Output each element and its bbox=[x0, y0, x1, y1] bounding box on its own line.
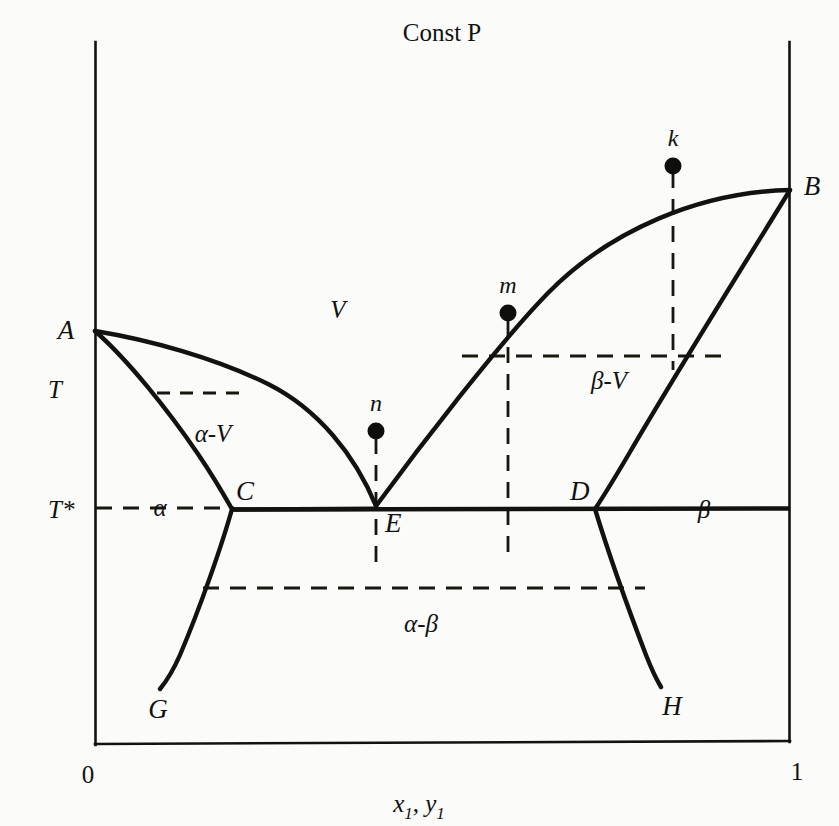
point-label-m: m bbox=[499, 272, 516, 298]
x-axis-label-x-sub: 1 bbox=[404, 804, 413, 823]
region-label-vapor: V bbox=[330, 296, 348, 323]
phase-diagram-figure: Const P T T* 0 1 x1, y1 A B C D E G H k … bbox=[0, 0, 839, 826]
figure-title: Const P bbox=[403, 19, 482, 46]
point-label-B: B bbox=[804, 171, 821, 201]
t-star-label: T* bbox=[48, 496, 75, 523]
x-axis-line bbox=[95, 741, 790, 744]
beta-dew-curve bbox=[376, 190, 790, 506]
x-tick-max-label: 1 bbox=[791, 758, 804, 785]
point-label-E: E bbox=[384, 508, 402, 538]
x-tick-min-label: 0 bbox=[82, 761, 95, 788]
tie-lines-group bbox=[96, 356, 730, 588]
point-label-k: k bbox=[668, 125, 679, 151]
y-axis-label: T bbox=[48, 376, 64, 403]
axis-frame bbox=[95, 42, 790, 745]
svg-text:x1, y1: x1, y1 bbox=[392, 790, 445, 823]
point-label-n: n bbox=[370, 390, 382, 416]
region-label-alpha: α bbox=[153, 494, 167, 521]
point-label-C: C bbox=[236, 476, 255, 506]
state-point-n-dot[interactable] bbox=[368, 423, 385, 440]
point-label-G: G bbox=[148, 694, 168, 724]
x-axis-label: x1, y1 bbox=[392, 790, 445, 823]
region-label-beta-vapor: β-V bbox=[590, 367, 630, 394]
eutectic-horizontal-line-left bbox=[231, 509, 376, 510]
region-label-alpha-vapor: α-V bbox=[195, 420, 234, 447]
region-label-alpha-beta: α-β bbox=[404, 610, 438, 637]
point-label-A: A bbox=[56, 315, 75, 345]
beta-solidus-curve bbox=[595, 190, 790, 509]
state-point-m-dot[interactable] bbox=[500, 305, 517, 322]
phase-diagram-svg: Const P T T* 0 1 x1, y1 A B C D E G H k … bbox=[0, 0, 839, 826]
x-axis-label-y-sub: 1 bbox=[436, 804, 445, 823]
x-axis-label-separator: , bbox=[413, 790, 426, 817]
point-label-H: H bbox=[661, 691, 683, 721]
point-label-D: D bbox=[569, 476, 590, 506]
x-axis-label-x: x bbox=[392, 790, 404, 817]
region-label-beta: β bbox=[697, 496, 711, 523]
x-axis-label-y: y bbox=[422, 790, 437, 817]
alpha-beta-solvus-left bbox=[160, 509, 232, 689]
state-point-k-dot[interactable] bbox=[665, 158, 682, 175]
alpha-beta-solvus-right bbox=[595, 509, 661, 687]
state-point-dots-group bbox=[368, 158, 682, 440]
